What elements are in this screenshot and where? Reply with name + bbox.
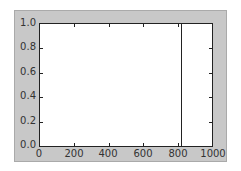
y-tick-mark	[209, 48, 212, 49]
y-tick-label: 0.4	[6, 90, 36, 101]
x-tick-label: 600	[123, 148, 163, 159]
y-tick-mark	[209, 73, 212, 74]
y-tick-mark	[40, 48, 43, 49]
x-tick-mark	[178, 24, 179, 27]
plot-area	[39, 23, 213, 147]
y-tick-mark	[40, 97, 43, 98]
y-tick-mark	[209, 122, 212, 123]
y-tick-mark	[209, 97, 212, 98]
vertical-line	[181, 24, 182, 146]
x-tick-mark	[109, 24, 110, 27]
x-tick-label: 1000	[193, 148, 233, 159]
x-tick-label: 0	[19, 148, 59, 159]
y-tick-label: 0.6	[6, 66, 36, 77]
y-tick-label: 0.8	[6, 41, 36, 52]
x-tick-mark	[143, 143, 144, 146]
y-tick-label: 0.2	[6, 115, 36, 126]
x-tick-label: 800	[158, 148, 198, 159]
y-tick-mark	[40, 122, 43, 123]
x-tick-label: 400	[88, 148, 128, 159]
y-tick-label: 1.0	[6, 17, 36, 28]
y-tick-mark	[40, 73, 43, 74]
x-tick-mark	[74, 143, 75, 146]
x-tick-mark	[109, 143, 110, 146]
x-tick-mark	[178, 143, 179, 146]
x-tick-mark	[143, 24, 144, 27]
x-tick-mark	[74, 24, 75, 27]
